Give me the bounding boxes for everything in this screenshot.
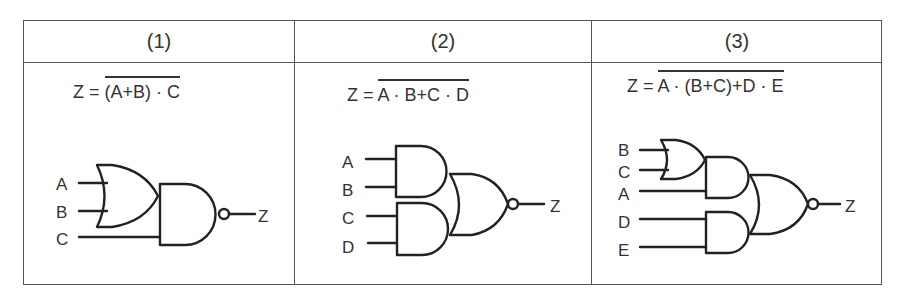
input-label-a: A [618, 185, 630, 204]
input-label-e: E [618, 241, 629, 260]
circuit-1: A B C Z [56, 165, 268, 249]
inversion-bubble [508, 199, 518, 209]
input-label-b: B [618, 141, 629, 160]
circuit-2: A B C D Z [342, 146, 560, 257]
input-label-d: D [618, 213, 630, 232]
nand-gate [160, 184, 215, 245]
and-gate-2 [397, 203, 448, 255]
output-label-z: Z [550, 197, 560, 216]
and-gate-1 [706, 157, 748, 198]
inversion-bubble [808, 199, 818, 209]
or-gate [97, 165, 158, 227]
and-gate-1 [396, 146, 447, 197]
input-label-b: B [342, 181, 353, 200]
input-label-d: D [342, 238, 354, 257]
input-label-c: C [56, 230, 68, 249]
nor-gate [450, 174, 508, 235]
or-gate [661, 140, 705, 179]
input-label-a: A [56, 175, 68, 194]
input-label-b: B [56, 203, 67, 222]
input-label-c: C [342, 209, 354, 228]
output-label-z: Z [258, 207, 268, 226]
circuit-3: B C A D E Z [618, 140, 855, 260]
inversion-bubble [219, 209, 229, 219]
input-label-a: A [342, 153, 354, 172]
output-label-z: Z [845, 197, 855, 216]
circuit-diagrams: A B C Z A B C D Z B C A D E [0, 0, 904, 301]
and-gate-2 [706, 212, 749, 253]
input-label-c: C [618, 163, 630, 182]
nor-gate [750, 175, 808, 234]
